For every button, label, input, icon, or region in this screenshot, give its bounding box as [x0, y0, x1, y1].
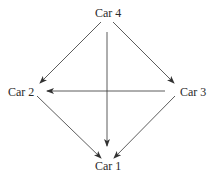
edge-car2-car1 — [37, 96, 101, 158]
edge-car3-car1 — [114, 96, 175, 158]
node-car-4: Car 4 — [95, 7, 121, 19]
edge-car4-car3 — [113, 22, 174, 83]
node-car-1: Car 1 — [95, 160, 121, 172]
edge-car4-car2 — [40, 22, 101, 83]
node-car-2: Car 2 — [8, 86, 34, 98]
node-car-3: Car 3 — [180, 86, 206, 98]
